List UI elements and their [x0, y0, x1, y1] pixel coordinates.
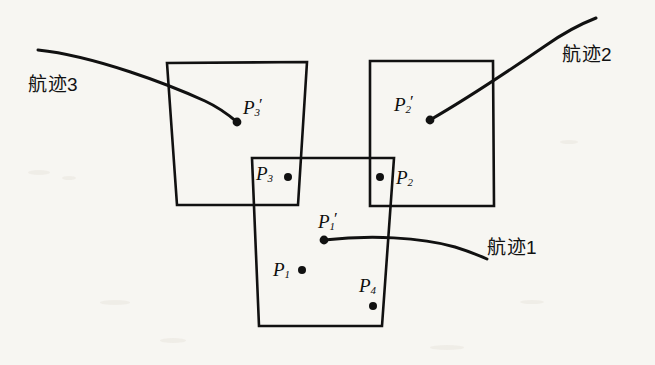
point-label-p2-prime: P2′: [394, 93, 414, 115]
diagram-canvas: [0, 0, 655, 365]
dot-p1: [298, 266, 306, 274]
right-gate-rectangle: [370, 61, 494, 206]
track-1-curve: [324, 237, 487, 259]
left-gate-rectangle: [167, 62, 307, 205]
dot-p4: [369, 302, 377, 310]
dot-p2-prime: [426, 116, 435, 125]
dot-p1-prime: [320, 236, 329, 245]
track-curves-group: [38, 18, 596, 259]
track-label-3: 航迹3: [28, 75, 78, 94]
point-label-p4: P4: [359, 276, 376, 296]
track-2-curve: [430, 18, 596, 120]
dot-p3: [284, 173, 292, 181]
point-label-p1-prime: P1′: [318, 210, 338, 232]
point-label-p2: P2: [396, 168, 413, 188]
dot-p2: [376, 173, 384, 181]
point-label-p1: P1: [273, 260, 290, 280]
track-label-2: 航迹2: [562, 45, 612, 64]
dot-p3-prime: [233, 118, 242, 127]
point-label-p3: P3: [256, 164, 273, 184]
point-label-p3-prime: P3′: [243, 96, 263, 118]
gate-rectangles-group: [167, 61, 494, 326]
figure-container: 航迹3 航迹2 航迹1 P3′ P2′ P1′ P3 P2 P1 P4: [0, 0, 655, 365]
track-label-1: 航迹1: [487, 238, 537, 257]
